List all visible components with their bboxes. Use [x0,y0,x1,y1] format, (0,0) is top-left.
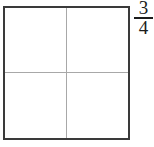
quadrant-bottom-left [5,73,67,138]
quadrant-top-left [5,8,67,73]
horizontal-divider-line [5,72,128,73]
fraction-denominator: 4 [133,19,154,36]
figure-root: 3 4 [0,0,154,147]
fraction-label: 3 4 [133,0,154,36]
vertical-divider-line [66,8,67,138]
quadrant-top-right [67,8,129,73]
fraction-numerator: 3 [133,0,154,17]
fraction-square-model [3,6,130,140]
quadrant-bottom-right [67,73,129,138]
